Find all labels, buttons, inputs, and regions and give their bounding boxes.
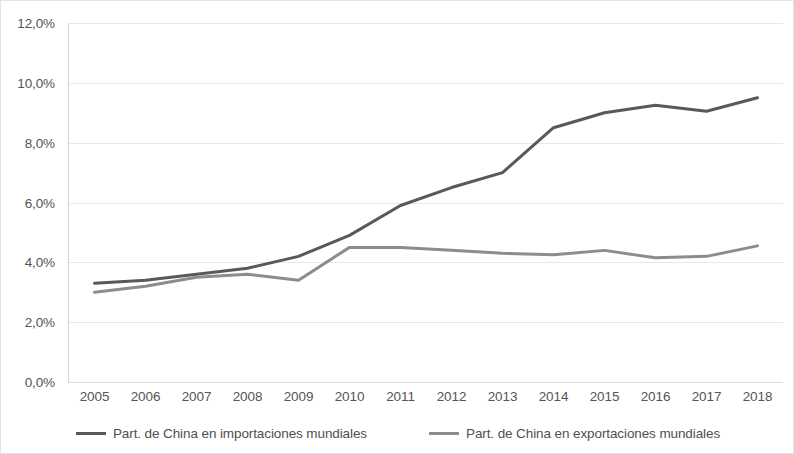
plot-area [69,23,783,382]
chart-figure: 0,0%2,0%4,0%6,0%8,0%10,0%12,0% 200520062… [0,0,794,454]
chart-legend: Part. de China en importaciones mundiale… [1,426,794,441]
series-lines [69,23,783,382]
y-tick-label: 0,0% [25,375,55,390]
x-tick-label-2008: 2008 [233,389,263,404]
x-tick-label-2017: 2017 [692,389,722,404]
x-tick-label-2018: 2018 [743,389,773,404]
y-tick-label: 2,0% [25,315,55,330]
x-tick-label-2011: 2011 [386,389,415,404]
x-tick-label-2015: 2015 [590,389,620,404]
x-tick-label-2012: 2012 [437,389,467,404]
y-tick-label: 6,0% [25,195,55,210]
y-tick-label: 4,0% [25,255,55,270]
gridline-00 [69,382,783,383]
legend-swatch-imports [76,432,106,436]
x-tick-label-2010: 2010 [335,389,365,404]
x-axis-tick-labels: 2005200620072008200920102011201220132014… [69,389,783,411]
x-tick-label-2005: 2005 [80,389,110,404]
series-line-part-de-china-en-exportaciones-mundiales [95,246,758,292]
x-tick-label-2007: 2007 [182,389,212,404]
y-axis-tick-labels: 0,0%2,0%4,0%6,0%8,0%10,0%12,0% [1,1,63,405]
legend-entry-part-de-china-en-exportaciones-mundiales[interactable]: Part. de China en exportaciones mundiale… [429,426,720,441]
legend-swatch-exports [429,432,459,436]
x-tick-label-2009: 2009 [284,389,314,404]
x-tick-label-2016: 2016 [641,389,671,404]
legend-label: Part. de China en importaciones mundiale… [113,426,367,441]
legend-entry-part-de-china-en-importaciones-mundiales[interactable]: Part. de China en importaciones mundiale… [76,426,367,441]
x-tick-label-2013: 2013 [488,389,518,404]
x-tick-label-2014: 2014 [539,389,569,404]
y-tick-label: 10,0% [17,75,55,90]
y-tick-label: 12,0% [17,16,55,31]
x-tick-label-2006: 2006 [131,389,161,404]
series-line-part-de-china-en-importaciones-mundiales [95,98,758,283]
legend-label: Part. de China en exportaciones mundiale… [466,426,720,441]
y-tick-label: 8,0% [25,135,55,150]
